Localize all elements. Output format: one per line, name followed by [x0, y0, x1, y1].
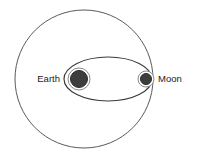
earth-moon-diagram: Earth Moon [0, 0, 197, 156]
moon-label: Moon [158, 73, 182, 84]
moon-body [141, 74, 152, 85]
diagram-canvas: Earth Moon [0, 0, 197, 156]
earth-label: Earth [37, 73, 60, 84]
earth-body [71, 71, 88, 88]
